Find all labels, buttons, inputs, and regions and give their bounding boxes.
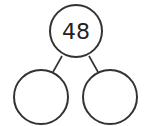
right-part-circle[interactable]	[83, 70, 137, 124]
left-connector-line	[53, 56, 62, 72]
whole-value: 48	[62, 19, 90, 44]
left-part-node[interactable]	[14, 70, 68, 124]
whole-node: 48	[50, 5, 102, 57]
number-bond-diagram: 48	[0, 0, 144, 126]
right-part-node[interactable]	[83, 70, 137, 124]
left-part-circle[interactable]	[14, 70, 68, 124]
right-connector-line	[89, 56, 98, 72]
